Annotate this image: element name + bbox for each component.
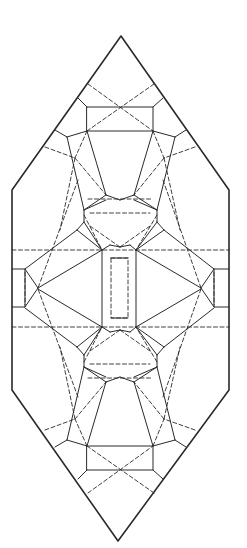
- top-rectangle: [87, 107, 153, 131]
- right-flap: [214, 269, 229, 307]
- crease-pattern-svg: [0, 0, 247, 548]
- left-flap: [12, 269, 25, 307]
- crease-pattern-diagram: [0, 0, 247, 548]
- lower-half-creases: [25, 289, 214, 493]
- center-inner-rectangle: [111, 258, 128, 318]
- outline-hexagon: [12, 36, 229, 541]
- upper-half-creases: [25, 84, 214, 288]
